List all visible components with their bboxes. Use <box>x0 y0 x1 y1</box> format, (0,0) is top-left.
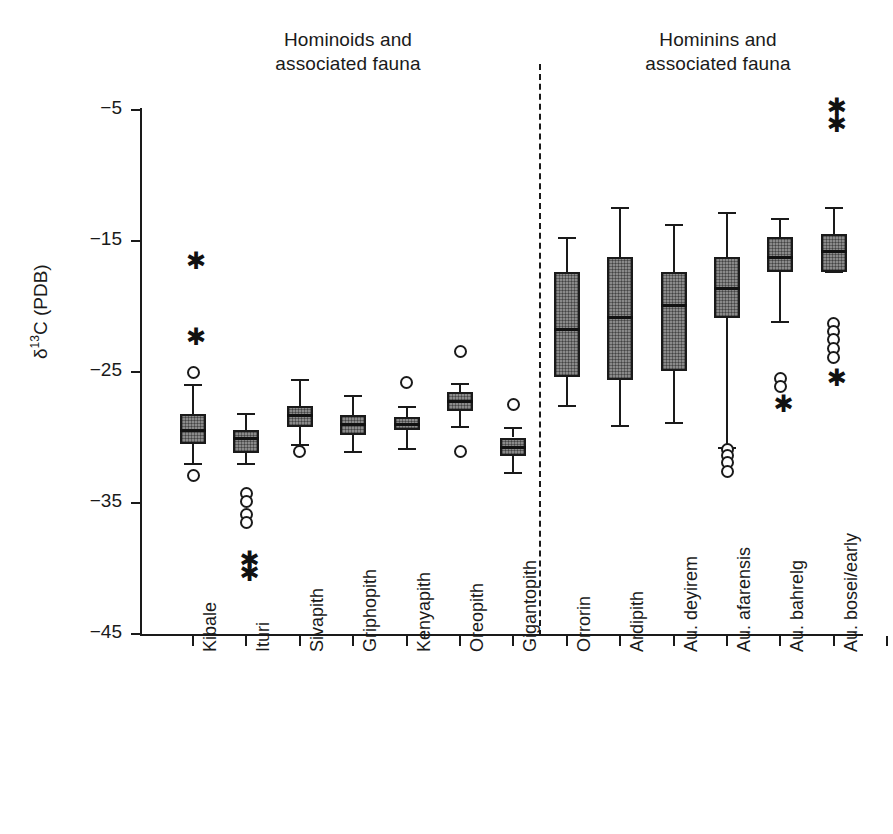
x-axis-label: Griphopith <box>360 569 381 652</box>
whisker-upper <box>619 208 621 256</box>
extreme-asterisk-marker: ✱ <box>239 568 259 578</box>
y-axis-label: δ13C (PDB) <box>28 212 51 412</box>
group-title-hominins-line1: Hominins and <box>578 28 858 52</box>
whisker-cap-lower <box>237 463 255 465</box>
whisker-lower <box>406 430 408 450</box>
x-tick <box>245 636 247 646</box>
whisker-upper <box>779 219 781 237</box>
x-tick <box>406 636 408 646</box>
whisker-lower <box>673 371 675 423</box>
whisker-upper <box>459 384 461 392</box>
outlier-circle-marker <box>454 445 467 458</box>
x-tick <box>512 636 514 646</box>
whisker-lower <box>619 380 621 426</box>
group-divider-dashed-line <box>539 64 541 636</box>
x-tick <box>886 636 888 646</box>
median-line <box>287 414 313 417</box>
outlier-circle-marker <box>827 351 840 364</box>
y-tick-label: −5 <box>62 97 122 119</box>
outlier-circle-marker <box>240 495 253 508</box>
group-title-hominoids-line2: associated fauna <box>208 52 488 76</box>
whisker-cap-upper <box>718 212 736 214</box>
y-axis-line <box>140 108 142 636</box>
whisker-cap-upper <box>504 427 522 429</box>
group-title-hominoids-line1: Hominoids and <box>208 28 488 52</box>
x-tick <box>673 636 675 646</box>
box-iqr <box>661 272 687 370</box>
whisker-cap-upper <box>611 207 629 209</box>
whisker-cap-upper <box>771 218 789 220</box>
extreme-asterisk-marker: ✱ <box>827 373 847 383</box>
whisker-lower <box>299 427 301 445</box>
x-axis-label: Au. deyirem <box>681 556 702 652</box>
median-line <box>500 446 526 449</box>
x-axis-label: Ardipith <box>627 591 648 652</box>
boxplot-figure: Hominoids and associated fauna Hominins … <box>0 0 893 834</box>
whisker-lower <box>459 411 461 427</box>
y-tick <box>131 109 140 111</box>
whisker-cap-lower <box>398 448 416 450</box>
whisker-cap-upper <box>665 224 683 226</box>
whisker-upper <box>566 238 568 272</box>
x-tick <box>299 636 301 646</box>
extreme-asterisk-marker: ✱ <box>186 332 206 342</box>
whisker-cap-upper <box>344 395 362 397</box>
whisker-cap-upper <box>237 413 255 415</box>
x-tick <box>619 636 621 646</box>
group-title-hominoids: Hominoids and associated fauna <box>208 28 488 76</box>
whisker-lower <box>352 435 354 452</box>
whisker-upper <box>726 213 728 256</box>
whisker-cap-upper <box>291 379 309 381</box>
outlier-circle-marker <box>187 366 200 379</box>
outlier-circle-marker <box>187 469 200 482</box>
whisker-upper <box>406 407 408 416</box>
whisker-lower <box>192 444 194 464</box>
box-iqr <box>233 430 259 454</box>
y-tick <box>131 371 140 373</box>
whisker-cap-lower <box>504 472 522 474</box>
group-title-hominins-line2: associated fauna <box>578 52 858 76</box>
whisker-cap-lower <box>558 405 576 407</box>
x-tick <box>192 636 194 646</box>
x-axis-label: Sivapith <box>307 588 328 652</box>
y-tick-label: −15 <box>62 228 122 250</box>
whisker-cap-upper <box>558 237 576 239</box>
outlier-circle-marker <box>454 345 467 358</box>
median-line <box>554 328 580 331</box>
y-tick-label: −35 <box>62 490 122 512</box>
median-line <box>607 316 633 319</box>
median-line <box>340 423 366 426</box>
y-tick <box>131 240 140 242</box>
whisker-lower <box>779 272 781 322</box>
whisker-cap-lower <box>665 422 683 424</box>
outlier-circle-marker <box>507 398 520 411</box>
x-axis-label: Ituri <box>253 622 274 652</box>
outlier-circle-marker <box>293 445 306 458</box>
outlier-circle-marker <box>400 376 413 389</box>
x-axis-label: Gigantopith <box>520 560 541 652</box>
outlier-circle-marker <box>240 516 253 529</box>
median-line <box>767 256 793 259</box>
whisker-cap-lower <box>184 463 202 465</box>
whisker-cap-upper <box>825 207 843 209</box>
median-line <box>233 437 259 440</box>
median-line <box>447 400 473 403</box>
whisker-upper <box>352 396 354 416</box>
x-axis-label: Oreopith <box>467 583 488 652</box>
whisker-cap-upper <box>398 406 416 408</box>
whisker-cap-upper <box>451 383 469 385</box>
median-line <box>180 429 206 432</box>
whisker-cap-lower <box>611 425 629 427</box>
extreme-asterisk-marker: ✱ <box>773 399 793 409</box>
y-axis-label-superscript: 13 <box>28 335 42 348</box>
x-tick <box>726 636 728 646</box>
x-tick <box>566 636 568 646</box>
outlier-circle-marker <box>721 465 734 478</box>
median-line <box>394 423 420 426</box>
median-line <box>821 250 847 253</box>
x-axis-label: Kenyapith <box>414 572 435 652</box>
whisker-lower <box>566 377 568 406</box>
x-tick <box>459 636 461 646</box>
whisker-upper <box>673 225 675 272</box>
whisker-upper <box>192 385 194 414</box>
